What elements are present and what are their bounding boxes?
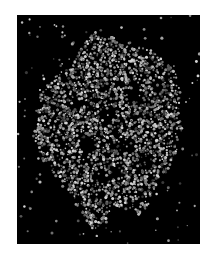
atom	[42, 91, 44, 93]
atom	[149, 150, 152, 153]
atom	[126, 94, 128, 96]
atom	[91, 138, 92, 139]
atom	[107, 145, 109, 147]
atom	[144, 66, 145, 67]
atom	[139, 144, 141, 146]
atom	[150, 88, 152, 90]
atom	[102, 188, 104, 190]
atom	[54, 80, 57, 83]
atom	[76, 110, 78, 112]
atom	[59, 112, 61, 114]
atom	[149, 193, 151, 195]
atom	[141, 178, 143, 180]
atom	[93, 52, 96, 55]
atom	[29, 207, 30, 208]
atom	[80, 184, 82, 186]
atom	[113, 98, 115, 100]
atom	[71, 153, 73, 155]
atom	[99, 79, 102, 82]
atom	[99, 149, 100, 150]
atom	[88, 73, 90, 75]
atom	[90, 174, 92, 176]
atom	[123, 66, 126, 69]
atom	[55, 90, 58, 93]
atom	[83, 83, 85, 85]
atom	[117, 203, 119, 205]
atom	[127, 183, 129, 185]
atom	[47, 137, 49, 139]
atom	[96, 198, 98, 200]
atom	[90, 173, 92, 175]
atom	[81, 201, 82, 202]
atom	[66, 143, 68, 145]
atom	[165, 105, 167, 107]
atom	[52, 168, 54, 170]
atom	[85, 45, 86, 46]
atom	[104, 70, 106, 72]
atom	[106, 160, 109, 163]
atom	[73, 125, 76, 128]
atom	[143, 28, 146, 31]
atom	[90, 90, 91, 91]
atom	[90, 84, 93, 87]
atom	[166, 90, 168, 92]
atom	[43, 98, 45, 100]
atom	[69, 138, 72, 141]
atom	[176, 127, 179, 130]
atom	[70, 185, 72, 187]
atom	[90, 216, 93, 219]
atom	[88, 196, 90, 198]
atom	[105, 91, 107, 93]
atom	[165, 110, 167, 112]
atom	[118, 141, 120, 143]
atom	[76, 186, 79, 189]
atom	[154, 53, 156, 55]
atom	[125, 113, 127, 115]
atom	[125, 63, 127, 65]
atom	[58, 165, 60, 167]
atom	[121, 177, 123, 179]
atom	[171, 131, 173, 133]
atom	[53, 148, 56, 151]
atom	[148, 71, 150, 73]
atom	[151, 138, 153, 140]
atom	[138, 61, 139, 62]
atom	[130, 133, 133, 136]
atom	[84, 195, 86, 197]
atom	[119, 149, 121, 151]
atom	[93, 225, 95, 227]
atom	[70, 181, 72, 183]
atom	[72, 123, 74, 125]
atom	[65, 148, 67, 150]
atom	[136, 49, 139, 52]
atom	[93, 96, 94, 97]
atom	[155, 75, 157, 77]
atom	[142, 170, 145, 173]
atom	[70, 172, 72, 174]
atom	[135, 52, 137, 54]
atom	[37, 127, 40, 130]
atom	[70, 100, 72, 102]
atom	[146, 95, 148, 97]
atom	[176, 209, 178, 211]
atom	[133, 105, 136, 108]
atom	[74, 150, 77, 153]
atom	[96, 117, 97, 118]
atom	[97, 225, 99, 227]
atom	[81, 91, 84, 94]
atom	[84, 55, 87, 58]
atom	[59, 65, 62, 68]
atom	[166, 149, 168, 151]
atom	[115, 93, 118, 96]
atom	[83, 109, 85, 111]
atom	[121, 91, 123, 93]
atom	[161, 95, 163, 97]
atom	[170, 80, 173, 83]
atom	[47, 152, 49, 154]
atom	[120, 89, 122, 91]
atom	[95, 127, 98, 130]
atom	[103, 161, 106, 164]
atom	[147, 103, 150, 106]
atom	[89, 41, 92, 44]
atom	[112, 64, 114, 65]
